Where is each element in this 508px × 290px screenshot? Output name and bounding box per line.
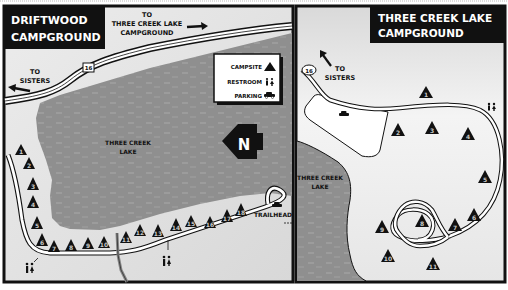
- svg-text:8: 8: [420, 220, 424, 227]
- route-number: 16: [85, 65, 93, 71]
- title-line-2: CAMPGROUND: [11, 31, 101, 44]
- direction-text: SISTERS: [20, 77, 51, 85]
- svg-text:6: 6: [40, 239, 44, 246]
- north-label: N: [238, 136, 251, 154]
- direction-text: THREE CREEK LAKE: [112, 20, 183, 28]
- title-line-1: DRIFTWOOD: [11, 14, 88, 27]
- svg-text:17: 17: [223, 215, 231, 222]
- svg-text:8: 8: [69, 244, 73, 251]
- direction-text: TO: [142, 11, 152, 19]
- direction-text: CAMPGROUND: [120, 29, 174, 37]
- svg-text:14: 14: [172, 224, 180, 231]
- svg-text:7: 7: [52, 245, 56, 252]
- svg-text:5: 5: [483, 176, 487, 183]
- legend-campsite-label: CAMPSITE: [231, 64, 263, 70]
- campground-maps: DRIFTWOOD CAMPGROUND TO THREE CREEK LAKE…: [0, 0, 508, 290]
- legend-parking-label: PARKING: [235, 93, 263, 99]
- route-number: 16: [305, 68, 313, 74]
- lake-label-text: THREE CREEK: [105, 139, 151, 146]
- svg-text:18: 18: [237, 209, 245, 216]
- legend-restroom-label: RESTROOM: [227, 79, 262, 85]
- svg-text:11: 11: [122, 236, 130, 243]
- svg-text:13: 13: [154, 230, 162, 237]
- svg-text:9: 9: [86, 242, 90, 249]
- direction-text: TO: [335, 65, 345, 73]
- map-legend: CAMPSITE RESTROOM PARKING: [214, 54, 283, 105]
- svg-text:6: 6: [472, 214, 476, 221]
- svg-text:10: 10: [384, 255, 392, 262]
- svg-text:4: 4: [466, 133, 470, 140]
- lake-label-text: LAKE: [119, 148, 136, 155]
- svg-text:1: 1: [19, 148, 23, 155]
- svg-text:5: 5: [35, 222, 39, 229]
- svg-text:12: 12: [136, 229, 144, 236]
- svg-text:16: 16: [206, 221, 214, 228]
- direction-text: SISTERS: [325, 74, 356, 82]
- route-16-sign: 16: [83, 63, 94, 72]
- route-16-sign: 16: [302, 65, 316, 75]
- svg-text:1: 1: [424, 91, 428, 98]
- svg-text:9: 9: [380, 226, 384, 233]
- svg-text:4: 4: [31, 201, 35, 208]
- title-line-2: CAMPGROUND: [378, 27, 464, 39]
- svg-text:7: 7: [453, 224, 457, 231]
- three-creek-map-panel: [296, 6, 505, 282]
- svg-text:2: 2: [27, 162, 31, 169]
- driftwood-title: DRIFTWOOD CAMPGROUND: [5, 7, 105, 49]
- trailhead-label: TRAILHEAD: [254, 211, 292, 218]
- svg-text:3: 3: [31, 183, 35, 190]
- three-creek-title: THREE CREEK LAKE CAMPGROUND: [370, 7, 504, 43]
- svg-text:3: 3: [430, 127, 434, 134]
- svg-text:10: 10: [100, 241, 108, 248]
- title-line-1: THREE CREEK LAKE: [378, 12, 492, 24]
- lake-label-text: THREE CREEK: [297, 174, 343, 181]
- lake-label-text: LAKE: [311, 183, 328, 190]
- svg-text:15: 15: [187, 220, 195, 227]
- svg-text:11: 11: [429, 263, 437, 270]
- direction-text: TO: [30, 68, 40, 76]
- svg-text:2: 2: [396, 129, 400, 136]
